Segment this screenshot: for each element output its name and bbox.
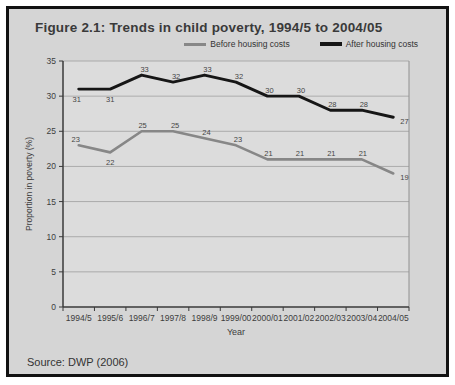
data-label: 27 [400, 117, 408, 126]
plot-background [63, 61, 409, 307]
line-chart: 051015202530351994/51995/61996/71997/819… [23, 49, 448, 342]
x-tick-label: 2002/03 [315, 313, 346, 323]
data-label: 33 [203, 65, 211, 74]
y-tick-label: 0 [51, 302, 56, 312]
x-tick-label: 1997/8 [160, 313, 186, 323]
x-tick-label: 2001/02 [284, 313, 315, 323]
legend-item-before-housing-costs: Before housing costs [184, 39, 289, 49]
chart-area: 051015202530351994/51995/61996/71997/819… [23, 49, 436, 355]
data-label: 23 [72, 135, 80, 144]
page: Figure 2.1: Trends in child poverty, 199… [0, 0, 455, 385]
y-tick-label: 5 [51, 267, 56, 277]
data-label: 32 [172, 72, 180, 81]
before-housing-costs-line-icon [184, 43, 206, 46]
data-label: 33 [140, 65, 148, 74]
figure-2-1: Figure 2.1: Trends in child poverty, 199… [6, 6, 449, 377]
legend-label-after-housing-costs: After housing costs [346, 39, 418, 49]
data-label: 28 [328, 100, 336, 109]
data-label: 28 [360, 100, 368, 109]
y-axis-title: Proportion in poverty (%) [24, 137, 34, 231]
data-label: 25 [138, 121, 146, 130]
x-axis-title: Year [227, 327, 245, 337]
figure-title: Figure 2.1: Trends in child poverty, 199… [35, 20, 436, 35]
legend-label-before-housing-costs: Before housing costs [210, 39, 289, 49]
legend: Before housing costs After housing costs [23, 39, 418, 49]
data-label: 21 [327, 149, 335, 158]
x-tick-label: 2004/05 [378, 313, 409, 323]
data-label: 31 [73, 95, 81, 104]
x-tick-label: 1998/9 [192, 313, 218, 323]
data-label: 21 [359, 149, 367, 158]
source-note: Source: DWP (2006) [27, 356, 436, 368]
data-label: 30 [265, 86, 273, 95]
data-label: 30 [297, 86, 305, 95]
y-tick-label: 15 [47, 197, 57, 207]
x-tick-label: 2003/04 [346, 313, 377, 323]
x-tick-label: 2000/01 [252, 313, 283, 323]
after-housing-costs-line-icon [320, 42, 342, 46]
data-label: 24 [202, 128, 210, 137]
data-label: 19 [400, 173, 408, 182]
data-label: 23 [234, 135, 242, 144]
y-tick-label: 35 [47, 56, 57, 66]
y-tick-label: 30 [47, 91, 57, 101]
data-label: 32 [235, 72, 243, 81]
data-label: 25 [171, 121, 179, 130]
data-label: 22 [106, 158, 114, 167]
x-tick-label: 1994/5 [66, 313, 92, 323]
y-tick-label: 25 [47, 126, 57, 136]
y-tick-label: 10 [47, 232, 57, 242]
legend-item-after-housing-costs: After housing costs [320, 39, 418, 49]
data-label: 31 [106, 95, 114, 104]
x-tick-label: 1995/6 [97, 313, 123, 323]
data-label: 21 [264, 149, 272, 158]
x-tick-label: 1996/7 [129, 313, 155, 323]
y-tick-label: 20 [47, 161, 57, 171]
data-label: 21 [296, 149, 304, 158]
x-tick-label: 1999/00 [221, 313, 252, 323]
